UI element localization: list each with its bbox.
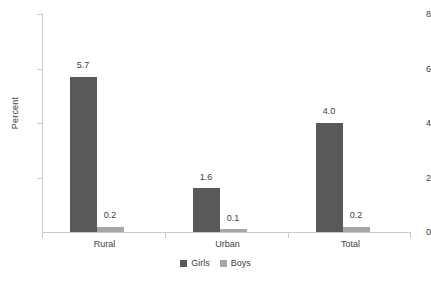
- y-axis-title: Percent: [10, 83, 20, 143]
- bar-urban-boys: [220, 229, 247, 232]
- bar-rural-boys: [97, 227, 124, 233]
- y-tick-label-8: 8: [409, 10, 431, 19]
- plot-area: 5.7 0.2 1.6 0.1 4.0 0.2: [42, 14, 411, 232]
- legend-item-girls: Girls: [180, 259, 210, 268]
- legend-swatch-boys-icon: [220, 260, 227, 267]
- legend-item-boys: Boys: [220, 259, 251, 268]
- bar-chart: Percent 8 6 4 2 0 5.7 0.2 1.6 0.1 4.0 0.…: [0, 0, 431, 287]
- bar-urban-girls: [193, 188, 220, 232]
- y-tick-label-4: 4: [409, 119, 431, 128]
- x-axis-label-rural: Rural: [63, 239, 146, 249]
- bar-value-total-boys: 0.2: [336, 211, 376, 220]
- bar-value-urban-boys: 0.1: [213, 214, 253, 223]
- bar-value-rural-boys: 0.2: [90, 211, 130, 220]
- x-axis-tick-1: [165, 233, 166, 238]
- bar-value-urban-girls: 1.6: [186, 173, 226, 182]
- legend-label-boys: Boys: [231, 259, 251, 268]
- legend-label-girls: Girls: [191, 259, 210, 268]
- chart-legend: Girls Boys: [0, 259, 431, 268]
- bar-value-total-girls: 4.0: [309, 107, 349, 116]
- y-tick-label-6: 6: [409, 65, 431, 74]
- y-tick-label-0: 0: [409, 228, 431, 237]
- x-axis-tick-end: [410, 233, 411, 238]
- bar-value-rural-girls: 5.7: [63, 61, 103, 70]
- x-axis-label-urban: Urban: [186, 239, 269, 249]
- legend-swatch-girls-icon: [180, 260, 187, 267]
- x-axis-label-total: Total: [309, 239, 392, 249]
- y-tick-label-2: 2: [409, 174, 431, 183]
- x-axis-tick-start: [42, 233, 43, 238]
- x-axis-tick-2: [288, 233, 289, 238]
- bar-total-boys: [343, 227, 370, 233]
- x-axis-line: [42, 232, 411, 233]
- bar-rural-girls: [70, 77, 97, 232]
